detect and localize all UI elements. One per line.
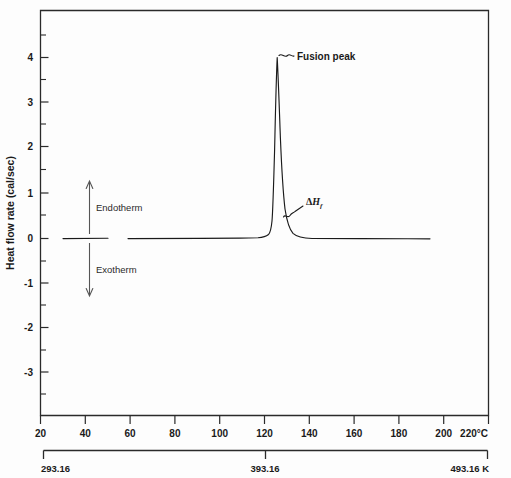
x-tick-label: 20 [35, 428, 47, 439]
dsc-thermogram-chart: 4 3 2 1 0 -1 -2 -3 Heat flow rate (cal/s… [0, 0, 511, 478]
x-tick-label: 200 [435, 428, 452, 439]
y-tick-label: 1 [27, 188, 33, 199]
y-axis-title: Heat flow rate (cal/sec) [4, 156, 16, 270]
fusion-peak-label: Fusion peak [297, 51, 356, 62]
endotherm-label: Endotherm [96, 202, 143, 213]
exotherm-label: Exotherm [96, 264, 137, 275]
x-tick-label: 100 [211, 428, 228, 439]
x-tick-label: 160 [346, 428, 363, 439]
x-tick-label-last: 220°C [460, 428, 488, 439]
y-tick-label: -1 [24, 278, 33, 289]
kelvin-tick-label: 293.16 [41, 463, 70, 474]
kelvin-tick-label: 493.16 K [450, 463, 489, 474]
x-tick-label: 40 [80, 428, 92, 439]
y-tick-label: 3 [27, 97, 33, 108]
x-tick-label: 80 [169, 428, 181, 439]
y-tick-label: -3 [24, 367, 33, 378]
y-tick-label: 2 [27, 141, 33, 152]
x-tick-label: 180 [391, 428, 408, 439]
y-tick-label: 0 [27, 233, 33, 244]
y-tick-label: 4 [27, 52, 33, 63]
x-tick-label: 140 [301, 428, 318, 439]
x-tick-label: 120 [256, 428, 273, 439]
figure-root: 4 3 2 1 0 -1 -2 -3 Heat flow rate (cal/s… [0, 0, 511, 478]
kelvin-tick-label: 393.16 [250, 463, 279, 474]
y-tick-label: -2 [24, 322, 33, 333]
x-tick-label: 60 [125, 428, 137, 439]
